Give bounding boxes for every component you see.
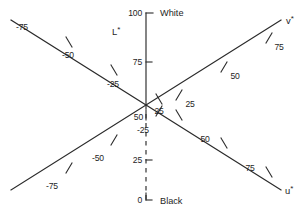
axis-name-labels: White Black L* v* u* [112, 8, 294, 206]
v-tick-neg75 [66, 163, 72, 173]
v-tick-neg50 [111, 135, 117, 145]
l-label-75: 75 [133, 57, 143, 67]
u-tick-pos50 [221, 138, 227, 148]
v-axis-name-star: * [291, 14, 294, 23]
u-tick-neg75 [66, 37, 72, 47]
u-tick-pos75 [266, 167, 272, 177]
u-label-pos50: 50 [200, 134, 210, 144]
v-label-pos50: 50 [230, 71, 240, 81]
v-tick-pos25 [176, 90, 182, 100]
u-tick-neg50 [111, 65, 117, 75]
diagram-canvas: 100 75 50 25 0 -75 -50 -25 25 50 75 -75 … [0, 0, 301, 218]
u-axis-name: u* [285, 184, 293, 196]
l-axis-name: L* [112, 25, 120, 37]
v-label-pos75: 75 [274, 42, 284, 52]
u-label-pos25: 25 [154, 106, 164, 116]
black-label: Black [160, 196, 183, 206]
cieluv-axes-diagram: 100 75 50 25 0 -75 -50 -25 25 50 75 -75 … [0, 0, 301, 218]
l-label-50: 50 [134, 112, 144, 122]
v-label-pos25: 25 [185, 99, 195, 109]
v-label-neg75: -75 [46, 181, 58, 191]
white-label: White [160, 8, 184, 18]
v-label-neg25: -25 [137, 125, 149, 135]
v-label-neg50: -50 [92, 153, 104, 163]
u-axis-tick-labels: -75 -50 -25 25 50 75 [16, 22, 255, 173]
l-label-100: 100 [128, 8, 142, 18]
u-label-neg75: -75 [16, 22, 28, 32]
v-axis-ticks [66, 33, 272, 173]
u-tick-pos25 [176, 110, 182, 120]
l-axis-ticks [146, 13, 153, 200]
l-label-0: 0 [137, 195, 142, 205]
v-axis-name: v* [286, 14, 294, 26]
u-axis-name-star: * [290, 184, 293, 193]
l-axis-name-star: * [117, 25, 120, 34]
v-tick-pos75 [266, 33, 272, 43]
u-label-neg25: -25 [107, 79, 119, 89]
l-axis-tick-labels: 100 75 50 25 0 [128, 8, 143, 205]
u-label-pos75: 75 [245, 163, 255, 173]
v-tick-pos50 [221, 62, 227, 72]
axis-lines [11, 13, 281, 200]
u-label-neg50: -50 [62, 50, 74, 60]
l-label-25: 25 [133, 155, 143, 165]
